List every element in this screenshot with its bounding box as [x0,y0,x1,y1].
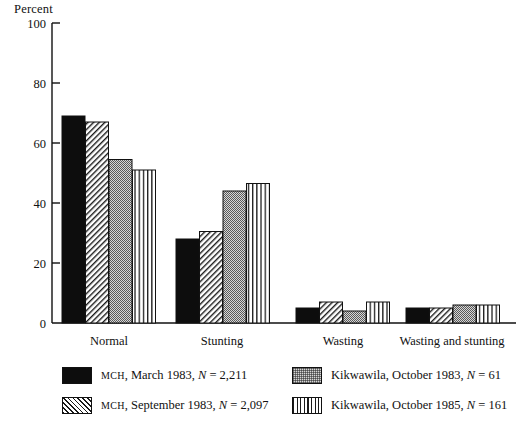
bar-chart-plot: 100 80 60 40 20 0 Normal Stunting Wastin… [0,0,522,360]
legend-label-mch-september-1983: MCH, September 1983, N = 2,097 [101,399,269,412]
legend-item-mch-september-1983: MCH, September 1983, N = 2,097 [62,397,292,414]
y-tick-80: 80 [34,77,47,91]
bar-stunting-kikwawila-october-1985 [247,184,270,324]
y-tick-100: 100 [27,17,46,31]
legend-item-kikwawila-october-1983: Kikwawila, October 1983, N = 61 [292,367,522,384]
y-tick-20: 20 [34,257,47,271]
legend-label-kikwawila-october-1983: Kikwawila, October 1983, N = 61 [331,369,501,382]
legend-label-mch-march-1983: MCH, March 1983, N = 2,211 [101,369,247,382]
bars-layer [62,116,500,323]
x-category-label-stunting: Stunting [201,334,244,348]
bar-wasting-mch-september-1983 [320,302,343,323]
bar-wasting-kikwawila-october-1983 [343,311,366,323]
y-tick-0: 0 [40,317,46,331]
bar-wasting-mch-march-1983 [296,308,319,323]
bar-normal-kikwawila-october-1983 [109,160,132,324]
legend-item-mch-march-1983: MCH, March 1983, N = 2,211 [62,367,292,384]
legend-swatch-stipple-icon [292,367,322,384]
chart-legend: MCH, March 1983, N = 2,211 Kikwawila, Oc… [62,360,512,420]
chart-container: Percent [0,0,522,423]
bar-normal-mch-september-1983 [86,122,109,323]
x-category-label-wasting-and-stunting: Wasting and stunting [399,334,505,348]
bar-stunting-kikwawila-october-1983 [223,191,246,323]
bar-wasting-and-stunting-kikwawila-october-1983 [453,305,476,323]
bar-wasting-kikwawila-october-1985 [367,302,390,323]
bar-normal-mch-march-1983 [62,116,85,323]
bar-wasting-and-stunting-mch-march-1983 [406,308,429,323]
bar-stunting-mch-march-1983 [176,239,199,323]
legend-label-kikwawila-october-1985: Kikwawila, October 1985, N = 161 [331,399,507,412]
y-tick-60: 60 [34,137,47,151]
legend-swatch-solid-icon [62,367,92,384]
bar-wasting-and-stunting-mch-september-1983 [430,308,453,323]
legend-swatch-diagonal-icon [62,397,92,414]
bar-normal-kikwawila-october-1985 [133,170,156,323]
x-category-label-normal: Normal [90,334,129,348]
y-tick-40: 40 [34,197,47,211]
y-axis [52,23,60,323]
x-category-label-wasting: Wasting [323,334,364,348]
bar-stunting-mch-september-1983 [200,232,223,324]
bar-wasting-and-stunting-kikwawila-october-1985 [477,305,500,323]
legend-item-kikwawila-october-1985: Kikwawila, October 1985, N = 161 [292,397,522,414]
legend-swatch-vertical-icon [292,397,322,414]
